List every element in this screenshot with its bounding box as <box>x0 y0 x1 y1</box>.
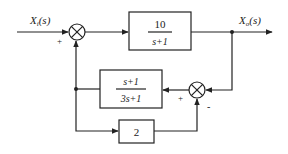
block-diagram: Xi(s) + 10 s+1 Xo(s) + - s+1 3s+1 <box>0 0 288 154</box>
input-label: Xi(s) <box>29 14 51 28</box>
summing-junction-2 <box>189 82 205 98</box>
feedback-numerator: s+1 <box>123 76 139 87</box>
forward-block: 10 s+1 <box>129 12 191 50</box>
gain-block: 2 <box>119 120 154 143</box>
feedback-denominator: 3s+1 <box>120 93 142 104</box>
summing-junction-1 <box>69 24 85 40</box>
output-feedback-line <box>206 32 232 90</box>
output-label: Xo(s) <box>238 14 261 28</box>
sum2-minus-sign: - <box>207 101 210 112</box>
forward-numerator: 10 <box>155 18 167 30</box>
feedback-block: s+1 3s+1 <box>100 70 162 108</box>
sum2-plus-sign: + <box>178 93 183 103</box>
forward-denominator: s+1 <box>152 36 168 47</box>
sum1-plus-sign: + <box>57 36 62 46</box>
gain-value: 2 <box>134 126 140 138</box>
